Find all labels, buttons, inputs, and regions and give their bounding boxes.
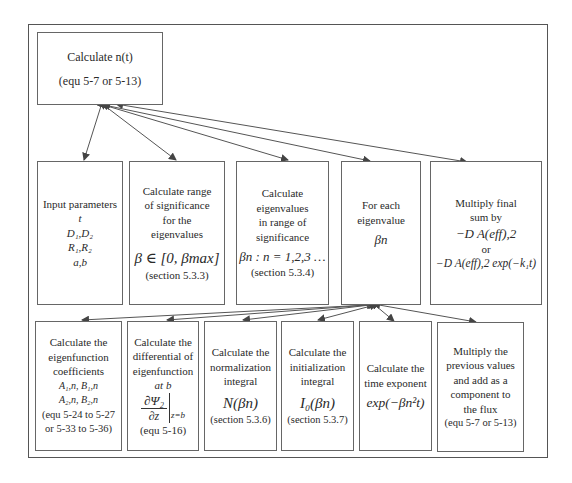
beta-n-symbol: βn xyxy=(375,231,388,248)
calculate-flux-box: Calculate n(t) (equ 5-7 or 5-13) xyxy=(37,32,163,105)
init-line-3: integral xyxy=(301,374,335,389)
range-formula: β ∈ [0, βmax] xyxy=(134,248,219,268)
time-line-1: Calculate the xyxy=(367,361,425,376)
eigenfunction-coefficients-box: Calculate the eigenfunction coefficients… xyxy=(35,321,122,451)
flux-line-3: and add as a xyxy=(453,373,507,388)
eigen-line-2: eigenvalues xyxy=(257,201,309,216)
init-line-1: Calculate the xyxy=(289,345,347,360)
multiply-or: or xyxy=(481,242,490,257)
multiply-line-1: Multiply final xyxy=(455,196,516,211)
diff-line-1: Calculate the xyxy=(134,335,192,350)
range-line-4: eigenvalues xyxy=(151,227,203,242)
init-section-ref: (section 5.3.7) xyxy=(287,413,347,428)
flux-equ-ref: (equ 5-7 or 5-13) xyxy=(444,416,516,431)
differential-eigenfunction-box: Calculate the differential of eigenfunct… xyxy=(127,321,199,451)
norm-line-1: Calculate the xyxy=(212,345,270,360)
eigen-section-ref: (section 5.3.4) xyxy=(251,265,314,280)
diff-equ-ref: (equ 5-16) xyxy=(140,423,186,438)
flux-line-5: the flux xyxy=(464,402,498,417)
top-box-subtitle: (equ 5-7 or 5-13) xyxy=(59,72,141,90)
multiply-final-sum-box: Multiply final sum by −D A(eff),2 or −D … xyxy=(430,161,542,305)
norm-formula: N(βn) xyxy=(223,393,258,413)
partial-denominator: ∂z xyxy=(149,409,160,423)
calculate-eigenvalues-box: Calculate eigenvalues in range of signif… xyxy=(236,161,329,305)
time-line-2: time exponent xyxy=(364,376,427,391)
eigen-line-4: significance xyxy=(256,230,309,245)
coeff-equ-ref-2: or 5-33 to 5-36) xyxy=(45,422,112,437)
input-parameters-label: Input parameters xyxy=(43,197,117,212)
range-line-1: Calculate range xyxy=(143,184,212,199)
multiply-formula-2: −D A(eff),2 exp(−k₁t) xyxy=(436,256,536,271)
norm-section-ref: (section 5.3.6) xyxy=(210,413,270,428)
coeff-a1b1: A₁,n, B₁,n xyxy=(59,379,98,394)
range-of-significance-box: Calculate range of significance for the … xyxy=(129,161,225,305)
param-t: t xyxy=(78,211,81,226)
coeff-equ-ref-1: (equ 5-24 to 5-27 xyxy=(42,408,115,423)
range-section-ref: (section 5.3.3) xyxy=(145,268,208,283)
eigen-line-1: Calculate xyxy=(262,186,304,201)
diff-line-4: at b xyxy=(155,378,172,393)
eigen-formula: βn : n = 1,2,3 … xyxy=(239,248,325,265)
multiply-line-2: sum by xyxy=(470,210,502,225)
partial-derivative-formula: ∂Ψ₂ ∂z z=b xyxy=(141,393,185,423)
coeff-line-2: eigenfunction xyxy=(48,350,108,365)
top-box-title: Calculate n(t) xyxy=(67,48,133,66)
range-line-2: of significance xyxy=(144,198,209,213)
coeff-a2b2: A₂,n, B₂,n xyxy=(59,393,98,408)
param-ab: a,b xyxy=(73,255,87,270)
norm-line-2: normalization xyxy=(210,360,271,375)
norm-line-3: integral xyxy=(224,374,258,389)
foreach-line-1: For each xyxy=(362,198,400,213)
diff-line-3: eigenfunction xyxy=(133,364,193,379)
multiply-add-flux-box: Multiply the previous values and add as … xyxy=(437,322,524,452)
coeff-line-1: Calculate the xyxy=(50,335,108,350)
foreach-line-2: eigenvalue xyxy=(357,213,405,228)
time-exponent-box: Calculate the time exponent exp(−βn²t) xyxy=(359,321,432,451)
evaluation-point: z=b xyxy=(169,393,185,423)
range-line-3: for the xyxy=(162,213,191,228)
init-formula: I₀(βn) xyxy=(300,393,335,413)
diff-line-2: differential of xyxy=(133,349,194,364)
for-each-eigenvalue-box: For each eigenvalue βn xyxy=(341,161,421,305)
flux-line-1: Multiply the xyxy=(453,344,508,359)
input-parameters-box: Input parameters t D₁,D₂ R₁,R₂ a,b xyxy=(37,161,123,305)
coeff-line-3: coefficients xyxy=(53,364,104,379)
eigen-line-3: in range of xyxy=(259,215,307,230)
param-r: R₁,R₂ xyxy=(68,240,92,255)
init-line-2: initialization xyxy=(290,360,346,375)
partial-numerator: ∂Ψ₂ xyxy=(141,393,167,409)
flux-line-4: component to xyxy=(450,387,510,402)
param-d: D₁,D₂ xyxy=(67,226,93,241)
normalization-integral-box: Calculate the normalization integral N(β… xyxy=(204,321,277,451)
multiply-formula-1: −D A(eff),2 xyxy=(456,225,517,242)
flux-line-2: previous values xyxy=(446,358,515,373)
initialization-integral-box: Calculate the initialization integral I₀… xyxy=(281,321,354,451)
time-formula: exp(−βn²t) xyxy=(366,396,424,411)
